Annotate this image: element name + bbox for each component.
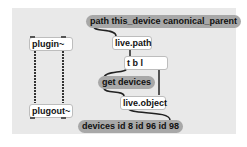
path-message[interactable]: path this_device canonical_parent: [86, 15, 241, 28]
plugin-inlet-right: [61, 36, 66, 38]
plugout-object[interactable]: plugout~: [29, 104, 73, 118]
cord-get-to-liveobject: [104, 88, 124, 96]
plugin-object[interactable]: plugin~: [29, 37, 73, 51]
devices-result-message[interactable]: devices id 8 id 96 id 98: [78, 120, 183, 133]
live-path-object[interactable]: live.path: [112, 36, 152, 50]
plugin-inlet: [30, 36, 35, 38]
plugout-outlet-right: [61, 117, 66, 119]
cord-path-to-livepath: [94, 27, 116, 36]
plugout-outlet: [30, 117, 35, 119]
trigger-object[interactable]: t b l: [124, 56, 168, 70]
live-object-object[interactable]: live.object: [120, 96, 166, 110]
get-devices-message[interactable]: get devices: [98, 76, 155, 89]
